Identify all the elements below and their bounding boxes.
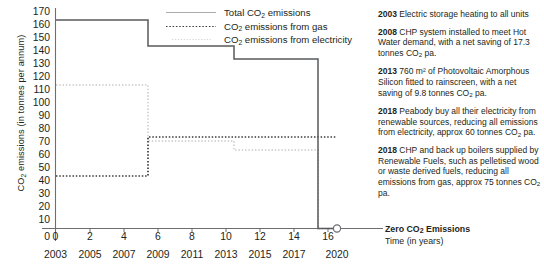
x-tick-num-4: 4 [113,232,135,242]
x-tick-num-0: 0 [45,232,67,242]
x-tick-year-2017: 2017 [277,250,311,260]
x-tick-year-2007: 2007 [107,250,141,260]
x-axis-title: Time (in years) [385,236,443,247]
x-tick-year-2013: 2013 [209,250,243,260]
x-tick-year-2009: 2009 [141,250,175,260]
series-total-line [56,20,337,229]
series-electricity-line [56,85,337,229]
annotation-2003: 2003 Electric storage heating to all uni… [378,9,542,20]
x-tick-year-2011: 2011 [175,250,209,260]
legend-label-total: Total CO2 emissions [224,6,310,20]
x-tick-num-6: 6 [147,232,169,242]
zero-emissions-label: Zero CO2 Emissions [385,224,470,235]
x-tick-year-2003: 2003 [39,250,73,260]
annotation-2018-electricity: 2018 Peabody buy all their electricity f… [378,106,542,139]
legend-label-gas: CO2 emissions from gas [224,20,327,34]
annotation-2008: 2008 CHP system installed to meet Hot Wa… [378,27,542,60]
legend-label-electricity: CO2 emissions from electricity [224,33,352,47]
x-tick-year-2020: 2020 [320,250,354,260]
annotation-2018-gas: 2018 CHP and back up boilers supplied by… [378,145,542,199]
x-tick-year-2005: 2005 [73,250,107,260]
x-tick-num-12: 12 [249,232,271,242]
x-tick-num-14: 14 [283,232,305,242]
series-gas-line [56,137,337,176]
chart-figure: CO2 emissions (in tonnes per annum) 170 … [0,0,544,271]
x-tick-num-10: 10 [215,232,237,242]
legend-key-dotted-dark [166,26,216,27]
annotation-2013: 2013 760 m² of Photovoltaic Amorphous Si… [378,66,542,99]
annotations-panel: 2003 Electric storage heating to all uni… [378,9,542,205]
x-tick-num-16: 16 [317,232,339,242]
x-tick-num-8: 8 [181,232,203,242]
x-tick-num-2: 2 [79,232,101,242]
legend-key-dotted-light [172,39,216,40]
x-tick-year-2015: 2015 [243,250,277,260]
legend-key-solid [166,12,216,13]
